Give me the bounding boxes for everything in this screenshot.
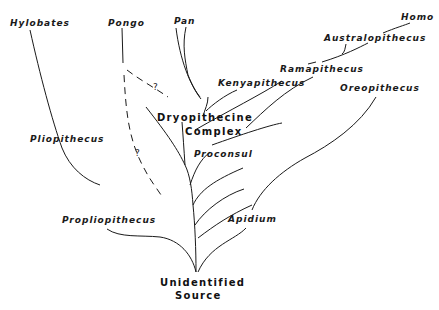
edge-trunk xyxy=(185,165,196,272)
label-proconsul: Proconsul xyxy=(194,149,253,159)
edge-hylobates xyxy=(30,30,100,185)
edge-pan-b xyxy=(184,27,200,97)
label-hylobates: Hylobates xyxy=(10,18,70,28)
label-pongo: Pongo xyxy=(108,18,145,28)
label-australopithecus: Australopithecus xyxy=(324,33,426,43)
edge-pongo-dashed-upper xyxy=(127,70,168,97)
edge-propliopithecus-root xyxy=(107,229,196,272)
label-propliopithecus: Propliopithecus xyxy=(62,215,156,225)
edge-pongo-dashed-lower xyxy=(124,75,163,198)
edge-kenyapithecus xyxy=(206,90,237,111)
label-homo: Homo xyxy=(401,12,434,22)
label-dryopithecine: Dryopithecine xyxy=(157,112,253,123)
edge-homo xyxy=(383,23,410,33)
label-pan: Pan xyxy=(174,16,196,26)
edge-pongo xyxy=(122,28,123,63)
label-apidium: Apidium xyxy=(228,214,277,224)
edge-austr-1 xyxy=(322,43,368,62)
uncertain-mark-upper: ? xyxy=(153,82,158,92)
edge-oreopithecus xyxy=(252,97,376,210)
edge-branch-b xyxy=(193,168,243,205)
label-pliopithecus: Pliopithecus xyxy=(30,134,104,144)
edge-pan-a xyxy=(176,28,201,99)
label-complex: Complex xyxy=(185,126,243,137)
edge-austr-stem xyxy=(342,44,346,54)
label-unidentified: Unidentified xyxy=(160,277,245,288)
label-kenyapithecus: Kenyapithecus xyxy=(218,78,305,88)
label-ramapithecus: Ramapithecus xyxy=(280,64,364,74)
label-oreopithecus: Oreopithecus xyxy=(340,83,420,93)
edge-apidium-root xyxy=(198,228,246,272)
label-source: Source xyxy=(175,290,222,301)
uncertain-mark-lower: ? xyxy=(135,148,140,158)
